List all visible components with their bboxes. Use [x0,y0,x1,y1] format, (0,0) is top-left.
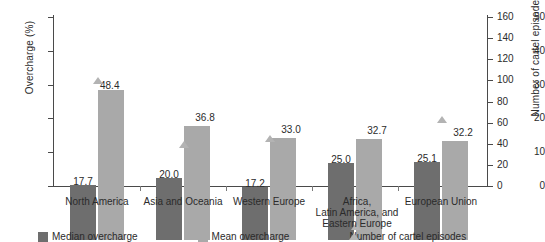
y-tick-right-20 [487,165,493,166]
y-ticklabel-right-100: 100 [497,75,537,85]
y-tick-right-120 [487,59,493,60]
bar-value-mean-western-europe: 33.0 [270,124,312,135]
bar-value-median-european-union: 25.1 [406,153,448,164]
y-ticklabel-right-0: 0 [497,181,537,191]
y-tick-right-0 [487,186,493,187]
y-ticklabel-right-40: 40 [497,139,537,149]
y-tick-right-140 [487,38,493,39]
y-tick-left-50 [48,17,54,18]
marker-episodes-european-union [437,116,447,123]
y-tick-right-80 [487,102,493,103]
marker-episodes-asia-and-oceania [179,141,189,148]
bar-mean-north-america [98,90,124,240]
y-ticklabel-right-60: 60 [497,118,537,128]
bar-value-median-africa-latin-america-eastern-europe: 25.0 [320,154,362,165]
y-ticklabel-right-20: 20 [497,160,537,170]
bar-mean-western-europe [270,138,296,240]
y-ticklabel-right-80: 80 [497,97,537,107]
bar-group-asia-and-oceania: 20.0 36.8 [140,71,226,240]
legend-swatch-mean-icon [198,232,208,242]
x-category-label-western-europe: Western Europe [224,196,314,207]
bar-value-median-north-america: 17.7 [62,176,104,187]
legend-item-median: Median overcharge [38,231,138,242]
y-ticklabel-right-140: 140 [497,33,537,43]
marker-episodes-western-europe [265,135,275,142]
x-category-label-north-america: North America [52,196,142,207]
bar-value-mean-european-union: 32.2 [442,127,484,138]
legend-label-mean: Mean overcharge [212,231,290,242]
legend-label-median: Median overcharge [52,231,138,242]
legend-swatch-median-icon [38,232,48,242]
y-axis-left-title: Overcharge (%) [24,0,35,123]
y-ticklabel-right-160: 160 [497,12,537,22]
marker-episodes-north-america [93,77,103,84]
y-tick-right-40 [487,144,493,145]
y-ticklabel-right-120: 120 [497,54,537,64]
legend-swatch-episodes-icon [349,233,359,240]
y-tick-left-40 [48,51,54,52]
bar-value-mean-asia-and-oceania: 36.8 [184,112,226,123]
bar-value-mean-africa-latin-america-eastern-europe: 32.7 [356,125,398,136]
bar-value-median-western-europe: 17.2 [234,178,276,189]
legend-item-episodes: Number of cartel episodes [349,231,466,242]
y-tick-right-100 [487,80,493,81]
bar-group-north-america: 17.7 48.4 [54,71,140,240]
y-tick-right-160 [487,17,493,18]
y-axis-right-spine [487,15,488,187]
legend-label-episodes: Number of cartel episodes [349,231,466,242]
bar-group-western-europe: 17.2 33.0 [226,71,312,240]
x-category-label-european-union: European Union [396,196,486,207]
chart-legend: Median overcharge Mean overcharge Number… [38,231,466,242]
legend-item-mean: Mean overcharge [198,231,290,242]
x-category-label-asia-and-oceania: Asia and Oceania [138,196,228,207]
y-tick-right-60 [487,123,493,124]
bar-value-mean-north-america: 48.4 [100,80,142,91]
bar-value-median-asia-and-oceania: 20.0 [148,169,190,180]
